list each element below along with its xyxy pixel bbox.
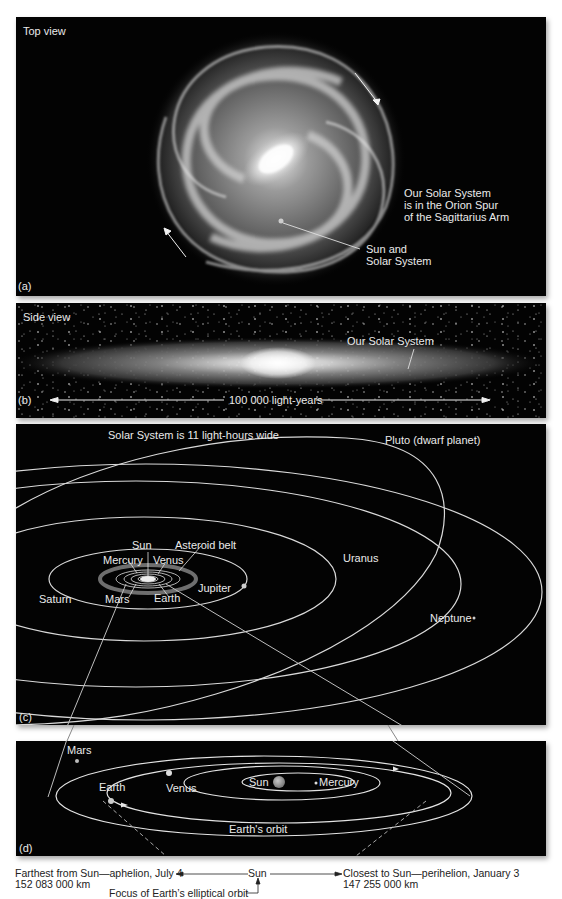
sun-and-solar-system-label-line1: Sun and bbox=[366, 243, 407, 255]
panel-d-inner-solar-system: Mars Earth Venus Sun Mercury Earth's orb… bbox=[16, 741, 546, 856]
pluto-label: Pluto (dwarf planet) bbox=[385, 434, 480, 446]
neptune-label: Neptune bbox=[430, 612, 472, 624]
sun-label-d: Sun bbox=[249, 776, 269, 788]
aphelion-distance: 152 083 000 km bbox=[15, 879, 90, 890]
mars-label-c: Mars bbox=[105, 593, 129, 605]
top-view-title: Top view bbox=[23, 25, 66, 37]
solar-system-width-title: Solar System is 11 light-hours wide bbox=[108, 429, 279, 441]
panel-b-side-view: Side view Our Solar System 100 000 light… bbox=[16, 303, 546, 418]
earth-dot bbox=[108, 798, 114, 804]
panel-letter-a: (a) bbox=[18, 280, 31, 292]
mars-label-d: Mars bbox=[67, 744, 91, 756]
venus-label-c: Venus bbox=[153, 554, 184, 566]
our-solar-system-label: Our Solar System bbox=[347, 335, 434, 347]
venus-label-d: Venus bbox=[166, 782, 197, 794]
sun-label-c: Sun bbox=[132, 539, 152, 551]
venus-dot bbox=[166, 770, 172, 776]
side-view-title: Side view bbox=[23, 311, 70, 323]
mercury-label-d: Mercury bbox=[319, 776, 359, 788]
perihelion-distance: 147 255 000 km bbox=[343, 879, 418, 890]
saturn-orbit bbox=[16, 517, 336, 641]
inner-orbits-diagram bbox=[16, 741, 546, 856]
saturn-label: Saturn bbox=[39, 593, 71, 605]
caption-sun-label: Sun bbox=[248, 868, 267, 879]
panel-letter-c: (c) bbox=[19, 711, 32, 723]
mercury-dot bbox=[315, 782, 318, 785]
orion-spur-note-line1: Our Solar System bbox=[404, 187, 491, 199]
sun-disk-d bbox=[273, 776, 285, 788]
earth-label-d: Earth bbox=[99, 781, 125, 793]
solar-system-orbits-diagram bbox=[16, 424, 546, 725]
panel-letter-d: (d) bbox=[19, 842, 32, 854]
mars-dot bbox=[75, 759, 79, 763]
galaxy-top-view-image bbox=[16, 17, 546, 296]
earth-label-c: Earth bbox=[154, 592, 180, 604]
panel-letter-b: (b) bbox=[18, 394, 31, 406]
uranus-orbit bbox=[16, 481, 461, 687]
uranus-label: Uranus bbox=[343, 552, 378, 564]
earths-orbit-label: Earth's orbit bbox=[229, 823, 287, 835]
jupiter-dot bbox=[242, 584, 247, 589]
sun-and-solar-system-label-line2: Solar System bbox=[366, 255, 431, 267]
scale-label-100000-light-years: 100 000 light-years bbox=[229, 394, 323, 406]
focus-of-orbit-label: Focus of Earth’s elliptical orbit bbox=[109, 888, 248, 899]
pluto-orbit bbox=[16, 437, 444, 725]
mercury-label-c: Mercury bbox=[103, 554, 143, 566]
orion-spur-note-line3: of the Sagittarius Arm bbox=[404, 211, 509, 223]
earth-orbit bbox=[107, 763, 451, 823]
jupiter-label: Jupiter bbox=[198, 582, 231, 594]
neptune-dot bbox=[473, 617, 476, 620]
asteroid-belt-label: Asteroid belt bbox=[175, 539, 236, 551]
panel-a-top-view: Top view Our Solar System is in the Orio… bbox=[16, 17, 546, 296]
orion-spur-note-line2: is in the Orion Spur bbox=[404, 199, 498, 211]
panel-c-solar-system: Solar System is 11 light-hours wide Plut… bbox=[16, 424, 546, 725]
neptune-orbit bbox=[16, 464, 542, 720]
